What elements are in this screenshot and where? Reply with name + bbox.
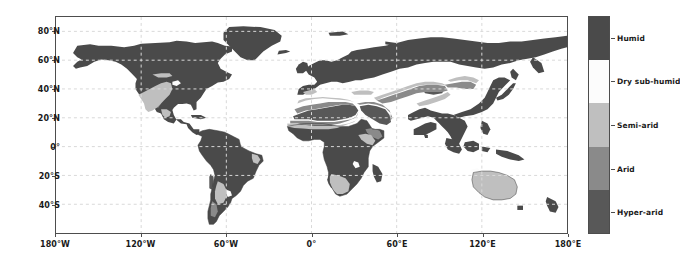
y-axis-label-0: 0° [50, 142, 60, 151]
map-plot-area[interactable] [55, 16, 568, 234]
x-axis-label-120w: 120°W [125, 240, 155, 249]
aridity-colorbar[interactable] [588, 16, 610, 234]
x-axis-label-180e: 180°E [555, 240, 582, 249]
x-tick-mark [141, 234, 142, 237]
colorbar-label-semi-arid: Semi-arid [617, 121, 659, 130]
x-tick-mark [397, 234, 398, 237]
x-axis-label-120e: 120°E [469, 240, 496, 249]
colorbar-segment-arid [589, 147, 609, 190]
y-axis-label-20s: 20°S [39, 171, 60, 180]
colorbar-segment-hyper-arid [589, 190, 609, 233]
x-tick-mark [55, 234, 56, 237]
colorbar-tick [611, 81, 615, 82]
y-axis-label-60n: 60°N [38, 55, 60, 64]
x-axis-label-0: 0° [307, 240, 317, 249]
x-tick-mark [568, 234, 569, 237]
x-axis-label-180w: 180°W [40, 240, 70, 249]
colorbar-segment-semi-arid [589, 103, 609, 146]
x-tick-mark [483, 234, 484, 237]
colorbar-tick [611, 169, 615, 170]
y-axis-label-80n: 80°N [38, 26, 60, 35]
x-axis-label-60e: 60°E [387, 240, 408, 249]
colorbar-label-dry-sub-humid: Dry sub-humid [617, 77, 680, 86]
x-tick-mark [312, 234, 313, 237]
colorbar-tick [611, 125, 615, 126]
colorbar-tick [611, 38, 615, 39]
colorbar-segment-dry-sub-humid [589, 60, 609, 103]
colorbar-tick [611, 212, 615, 213]
x-axis-label-60w: 60°W [214, 240, 238, 249]
y-axis-label-20n: 20°N [38, 113, 60, 122]
colorbar-label-hyper-arid: Hyper-arid [617, 208, 663, 217]
colorbar-label-humid: Humid [617, 33, 645, 42]
y-axis-label-40s: 40°S [39, 201, 60, 210]
y-axis-label-40n: 40°N [38, 84, 60, 93]
x-tick-mark [226, 234, 227, 237]
colorbar-segment-humid [589, 17, 609, 60]
world-landmass-layer [56, 17, 567, 233]
colorbar-label-arid: Arid [617, 164, 635, 173]
